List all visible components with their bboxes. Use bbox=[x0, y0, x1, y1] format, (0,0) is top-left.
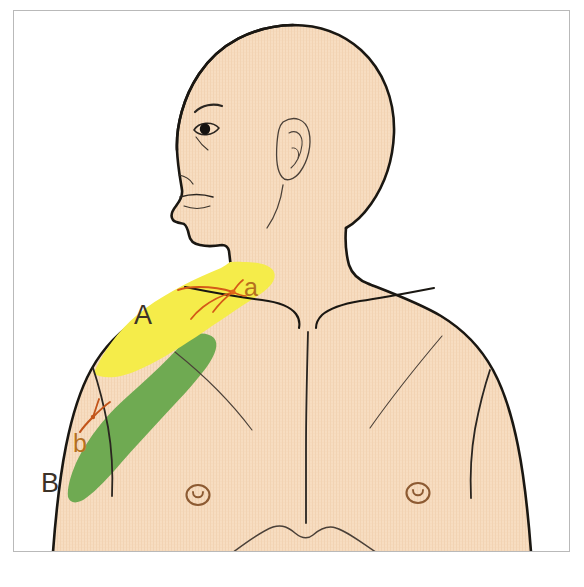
nerve-a-label: a bbox=[244, 273, 258, 301]
region-b-label: B bbox=[41, 468, 59, 498]
eye-pupil bbox=[200, 123, 210, 135]
region-a-label: A bbox=[134, 300, 152, 330]
anatomy-illustration: A B a b bbox=[0, 0, 584, 587]
nerve-b-label: b bbox=[73, 429, 87, 457]
nerve-a-node bbox=[230, 289, 235, 294]
figure-root: A B a b bbox=[0, 0, 584, 587]
body-fill bbox=[53, 25, 531, 552]
nerve-b-node bbox=[91, 415, 95, 419]
body-silhouette bbox=[53, 25, 531, 552]
